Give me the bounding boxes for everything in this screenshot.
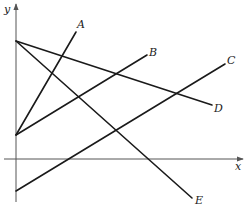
y-axis-label: y — [3, 3, 11, 16]
x-axis-label: x — [235, 160, 242, 173]
line-d-label: D — [213, 102, 223, 115]
line-c-label: C — [227, 54, 236, 67]
line-c — [16, 64, 225, 191]
line-b-label: B — [148, 46, 157, 59]
line-a — [16, 32, 76, 135]
line-graph-diagram: y x A B C D E — [0, 0, 246, 208]
line-d — [16, 41, 212, 105]
line-e-label: E — [194, 194, 203, 207]
diagram-canvas: y x A B C D E — [0, 0, 246, 208]
line-a-label: A — [76, 18, 85, 31]
